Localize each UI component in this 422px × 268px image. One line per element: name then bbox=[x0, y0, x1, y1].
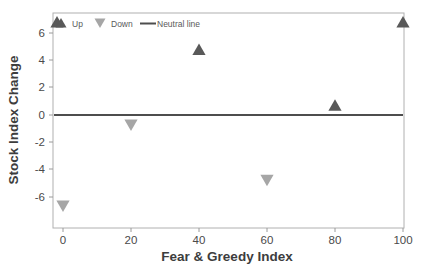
scatter-chart-figure: 6 4 2 0 -2 -4 -6 0 20 40 60 80 100 Fear bbox=[0, 0, 422, 268]
y-axis-tick-labels: 6 4 2 0 -2 -4 -6 bbox=[35, 27, 46, 203]
y-tick-label: 6 bbox=[39, 27, 45, 39]
x-tick-label: 20 bbox=[125, 234, 138, 246]
y-tick-label: -4 bbox=[35, 163, 46, 175]
y-axis-ticks bbox=[49, 33, 53, 197]
x-tick-label: 60 bbox=[261, 234, 274, 246]
y-tick-label: 0 bbox=[39, 109, 45, 121]
plot-area-background bbox=[53, 13, 404, 228]
x-axis-title: Fear & Greedy Index bbox=[161, 249, 293, 264]
chart-canvas: 6 4 2 0 -2 -4 -6 0 20 40 60 80 100 Fear bbox=[0, 0, 422, 268]
x-tick-label: 80 bbox=[329, 234, 342, 246]
y-tick-label: 4 bbox=[39, 54, 46, 66]
x-tick-label: 100 bbox=[393, 234, 412, 246]
x-axis-ticks bbox=[63, 228, 403, 232]
chart-legend: Up Down Neutral line bbox=[56, 18, 201, 29]
legend-label-neutral-line: Neutral line bbox=[157, 19, 200, 29]
legend-label-up: Up bbox=[72, 19, 83, 29]
y-tick-label: -6 bbox=[35, 191, 45, 203]
y-tick-label: -2 bbox=[35, 136, 45, 148]
y-tick-label: 2 bbox=[39, 81, 45, 93]
x-tick-label: 40 bbox=[193, 234, 206, 246]
x-axis-tick-labels: 0 20 40 60 80 100 bbox=[60, 234, 413, 246]
legend-label-down: Down bbox=[111, 19, 133, 29]
x-tick-label: 0 bbox=[60, 234, 66, 246]
y-axis-title: Stock Index Change bbox=[6, 55, 21, 185]
